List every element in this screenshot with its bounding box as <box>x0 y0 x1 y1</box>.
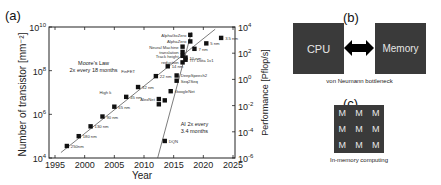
memory-cell: M <box>351 140 368 150</box>
x-tick-label: 2005 <box>104 160 124 170</box>
data-point <box>188 33 192 37</box>
data-point <box>157 102 161 106</box>
data-point <box>180 54 184 58</box>
memory-block: Memory <box>375 23 426 74</box>
data-point-label: 7 nm <box>198 47 208 52</box>
data-point <box>136 85 140 89</box>
data-point-label: 90 nm <box>106 115 118 120</box>
x-tick-label: 2015 <box>164 160 184 170</box>
data-point-label: 130 nm <box>95 124 109 129</box>
data-point <box>174 79 178 83</box>
data-point <box>88 124 92 128</box>
chart-annotation: 2x every 18 months <box>70 67 118 73</box>
data-point <box>112 104 116 108</box>
y-left-tick-label: 108 <box>33 66 47 77</box>
data-point <box>180 44 184 48</box>
data-point <box>169 89 173 93</box>
y-right-tick-label: 10-4 <box>238 127 254 138</box>
y-right-tick-label: 104 <box>238 22 252 33</box>
x-axis-label: Year <box>132 170 153 181</box>
memory-cell: M <box>367 124 384 134</box>
data-point <box>219 36 223 40</box>
y-right-tick-label: 102 <box>238 48 252 59</box>
data-point-label: AlexNet <box>140 97 155 102</box>
data-point-label: 3.5 nm <box>225 36 238 41</box>
data-point-label: reduction <box>161 60 179 65</box>
data-point-label: 32 nm <box>142 85 154 90</box>
side-label: FinFET <box>121 69 135 74</box>
data-point <box>204 41 208 45</box>
data-point-label: translation <box>159 50 179 55</box>
data-point <box>65 144 69 148</box>
memory-label: Memory <box>382 43 418 54</box>
data-point <box>100 114 104 118</box>
chart-annotation: Moore's Law <box>78 60 109 66</box>
data-point-label: 65 nm <box>118 105 130 110</box>
data-point <box>163 98 167 102</box>
cpu-block: CPU <box>293 23 344 74</box>
data-point <box>180 50 184 54</box>
y-left-tick-label: 106 <box>33 109 47 120</box>
panel-b-label: (b) <box>343 10 359 25</box>
data-point-label: AlphaGoZero <box>161 33 187 38</box>
data-point <box>192 47 196 51</box>
data-point <box>188 39 192 43</box>
y-right-tick-label: 10-2 <box>238 101 254 112</box>
memory-array-grid: M M M M M M M M M <box>334 105 384 153</box>
memory-cell: M <box>367 140 384 150</box>
data-point-label: 22 nm <box>160 74 172 79</box>
data-point <box>163 139 167 143</box>
data-point-label: AlphaZero <box>167 39 187 44</box>
data-point-label: 5 nm <box>210 41 220 46</box>
y-left-tick-label: 1010 <box>29 22 46 33</box>
x-tick-label: 2020 <box>193 160 213 170</box>
data-point-label: DQN <box>169 139 178 144</box>
memory-cell: M <box>351 108 368 118</box>
data-point <box>154 74 158 78</box>
y-right-tick-label: 100 <box>238 74 252 85</box>
moore-ai-chart: 1995200020052010201520202025Year10410610… <box>0 0 290 185</box>
data-point-label: 250nm <box>71 144 84 149</box>
y-right-axis-label: Performance [Pflop/s] <box>260 49 270 136</box>
data-point <box>180 60 184 64</box>
data-point <box>77 134 81 138</box>
x-tick-label: 1995 <box>45 160 65 170</box>
data-point-label: Neural Machine <box>149 45 179 50</box>
chart-annotation: 3.4 months <box>181 128 208 134</box>
memory-cell: M <box>334 108 351 118</box>
x-tick-label: 2000 <box>75 160 95 170</box>
von-neumann-caption: von Neumann bottleneck <box>293 78 426 84</box>
memory-cell: M <box>367 108 384 118</box>
cpu-label: CPU <box>307 43 330 55</box>
chart-annotation: AI 2x every <box>181 121 209 127</box>
memory-cell: M <box>351 124 368 134</box>
data-point-label: 180 nm <box>83 134 97 139</box>
data-point-label: GoogleNet <box>175 89 196 94</box>
data-point <box>157 97 161 101</box>
memory-cell: M <box>334 124 351 134</box>
data-point-label: TI7 Dota 1v1 <box>190 58 215 63</box>
data-point-label: Seq2Seq <box>181 79 199 84</box>
x-tick-label: 2010 <box>134 160 154 170</box>
data-point <box>124 95 128 99</box>
in-memory-caption: In-memory computing <box>319 157 399 163</box>
y-right-tick-label: 10-6 <box>238 153 254 164</box>
memory-cell: M <box>334 140 351 150</box>
data-point <box>174 73 178 77</box>
y-left-axis-label: Number of transistor [mm⁻²] <box>17 32 28 156</box>
side-label: High k <box>99 90 112 95</box>
bidirectional-arrow-icon <box>344 38 374 58</box>
